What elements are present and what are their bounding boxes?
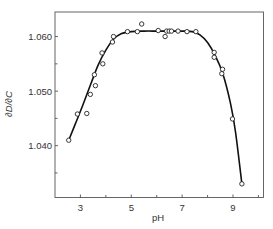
ph-derivative-chart: 3579 1.0401.0501.060 pH ∂D/∂C <box>0 0 273 229</box>
data-point <box>111 34 115 38</box>
y-tick-label: 1.060 <box>28 31 52 42</box>
y-axis-ticks: 1.0401.0501.060 <box>28 31 58 173</box>
data-point <box>101 62 105 66</box>
data-point <box>169 29 173 33</box>
data-point <box>240 182 244 186</box>
y-tick-label: 1.050 <box>28 86 52 97</box>
data-point <box>156 28 160 32</box>
x-tick-label: 9 <box>230 202 235 213</box>
x-tick-label: 7 <box>179 202 184 213</box>
data-point <box>176 29 180 33</box>
data-point <box>194 29 198 33</box>
data-point <box>212 55 216 59</box>
y-axis-label: ∂D/∂C <box>3 91 14 117</box>
x-tick-label: 5 <box>129 202 134 213</box>
data-point <box>220 67 224 71</box>
x-tick-label: 3 <box>78 202 83 213</box>
y-tick-label: 1.040 <box>28 140 52 151</box>
data-point <box>92 73 96 77</box>
data-point <box>100 51 104 55</box>
data-point <box>85 111 89 115</box>
data-point <box>93 83 97 87</box>
x-axis-label: pH <box>152 212 164 223</box>
data-point <box>140 22 144 26</box>
data-point <box>125 29 129 33</box>
data-point <box>185 29 189 33</box>
data-point <box>88 92 92 96</box>
data-point <box>230 117 234 121</box>
data-point <box>75 112 79 116</box>
data-point <box>212 50 216 54</box>
data-point <box>163 34 167 38</box>
data-point <box>110 40 114 44</box>
data-point <box>220 71 224 75</box>
plot-frame <box>55 12 264 198</box>
data-points <box>67 22 245 186</box>
data-point <box>67 138 71 142</box>
data-point <box>135 29 139 33</box>
